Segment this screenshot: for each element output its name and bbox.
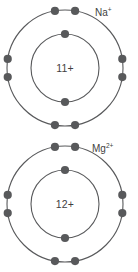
magnesium-ion-svg: 12+ Mg2+: [0, 136, 138, 272]
electron-dot: [118, 55, 126, 63]
sodium-ion-symbol: Na: [95, 7, 108, 18]
electron-dot: [61, 98, 69, 106]
sodium-ion-charge: +: [108, 6, 112, 13]
electron-dot: [118, 73, 126, 81]
sodium-ion-label: Na+: [95, 6, 112, 18]
magnesium-nucleus-charge: 12+: [56, 198, 74, 210]
electron-dot: [118, 209, 126, 217]
electron-dot: [4, 73, 12, 81]
atom-diagram-sodium-ion: 11+ Na+: [0, 0, 138, 136]
electron-dot: [71, 121, 79, 129]
electron-dot: [4, 55, 12, 63]
electron-dot: [61, 30, 69, 38]
magnesium-ion-charge: 2+: [106, 142, 114, 149]
electron-dot: [61, 166, 69, 174]
sodium-ion-svg: 11+ Na+: [0, 0, 138, 136]
electron-dot: [51, 143, 59, 151]
electron-dot: [71, 7, 79, 15]
electron-dot: [51, 121, 59, 129]
electron-dot: [51, 7, 59, 15]
electron-dot: [4, 191, 12, 199]
electron-dot: [61, 234, 69, 242]
magnesium-ion-symbol: Mg: [92, 143, 106, 154]
electron-dot: [71, 257, 79, 265]
atom-diagram-magnesium-ion: 12+ Mg2+: [0, 136, 138, 272]
bohr-model-diagram-stack: 11+ Na+ 12+ Mg2+: [0, 0, 138, 272]
magnesium-ion-label: Mg2+: [92, 142, 114, 154]
sodium-nucleus-charge: 11+: [56, 62, 74, 74]
electron-dot: [51, 257, 59, 265]
electron-dot: [118, 191, 126, 199]
electron-dot: [71, 143, 79, 151]
electron-dot: [4, 209, 12, 217]
